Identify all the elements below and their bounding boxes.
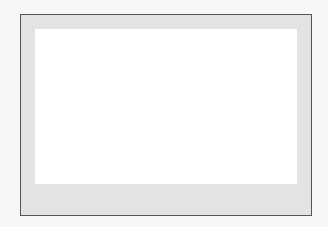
- boxplot-chart: [0, 0, 328, 227]
